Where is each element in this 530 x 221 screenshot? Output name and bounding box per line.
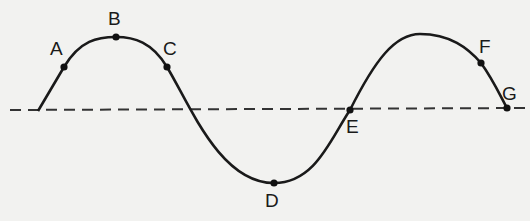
point-a-dot [60, 63, 67, 70]
point-f-dot [477, 59, 484, 66]
label-g: G [502, 84, 517, 103]
point-e-dot [346, 106, 353, 113]
point-d-dot [270, 179, 277, 186]
wave-diagram [0, 0, 530, 221]
point-g-dot [503, 104, 510, 111]
label-d: D [265, 191, 279, 210]
label-e: E [346, 117, 359, 136]
label-a: A [50, 39, 63, 58]
equilibrium-dashed-line [10, 108, 525, 110]
point-b-dot [112, 33, 119, 40]
label-b: B [108, 9, 121, 28]
label-f: F [479, 37, 491, 56]
label-c: C [163, 39, 177, 58]
point-c-dot [163, 63, 170, 70]
